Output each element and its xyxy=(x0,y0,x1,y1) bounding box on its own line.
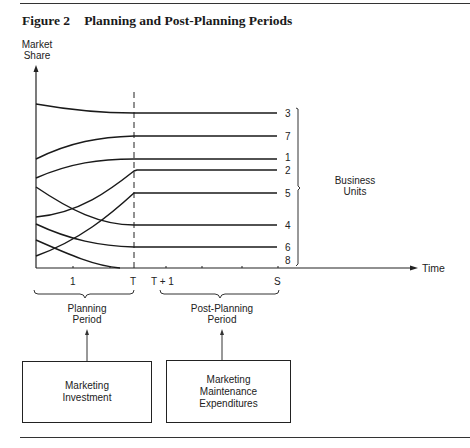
unit-label-7: 7 xyxy=(285,131,291,142)
unit-label-2: 2 xyxy=(285,165,291,176)
x-axis-arrow-icon xyxy=(410,266,418,271)
planning-period-label: Planning Period xyxy=(45,303,129,325)
unit-label-8: 8 xyxy=(285,255,291,266)
bottom-rule xyxy=(20,437,470,438)
curve-unit-6 xyxy=(36,224,277,247)
investment-arrow-head-icon xyxy=(85,329,89,335)
tick-label-t-plus-1: T + 1 xyxy=(151,276,174,287)
maintenance-arrow-head-icon xyxy=(220,329,224,335)
tick-label-s: S xyxy=(274,276,281,287)
tick-label-t: T xyxy=(130,276,136,287)
marketing-maintenance-box: Marketing Maintenance Expenditures xyxy=(166,360,291,423)
unit-label-3: 3 xyxy=(285,108,291,119)
y-axis-arrow-icon xyxy=(34,65,39,72)
marketing-investment-box: Marketing Investment xyxy=(22,361,152,423)
post-planning-period-label: Post-Planning Period xyxy=(165,303,279,325)
curve-unit-7 xyxy=(36,136,277,159)
unit-labels: 3 7 1 2 5 4 6 8 xyxy=(285,108,291,266)
curve-unit-1 xyxy=(36,159,277,178)
unit-label-5: 5 xyxy=(285,188,291,199)
curve-unit-8 xyxy=(36,240,120,268)
business-units-label: Business Units xyxy=(325,175,385,197)
curve-unit-3 xyxy=(36,104,277,113)
planning-period-brace xyxy=(34,290,134,298)
x-axis-label: Time xyxy=(422,262,445,274)
unit-label-1: 1 xyxy=(285,152,291,163)
tick-label-1: 1 xyxy=(70,276,76,287)
unit-label-4: 4 xyxy=(285,220,291,231)
unit-label-6: 6 xyxy=(285,242,291,253)
business-units-bracket xyxy=(296,108,300,266)
business-unit-curves xyxy=(36,104,277,268)
post-planning-period-brace xyxy=(160,290,279,298)
